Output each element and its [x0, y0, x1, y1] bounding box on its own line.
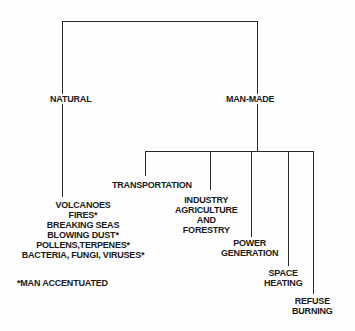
man-made-label: MAN-MADE [224, 94, 276, 104]
source-space-heating: SPACE HEATING [264, 268, 302, 288]
natural-label: NATURAL [48, 94, 93, 104]
branch-industry [210, 151, 211, 190]
root-connector [62, 21, 258, 22]
natural-stem [62, 21, 63, 197]
source-transportation: TRANSPORTATION [112, 180, 192, 190]
source-industry: INDUSTRY AGRICULTURE AND FORESTRY [175, 195, 238, 235]
man-made-stem [257, 21, 258, 151]
footnote: *MAN ACCENTUATED [17, 278, 108, 288]
pollution-sources-diagram: NATURAL MAN-MADE TRANSPORTATION INDUSTRY… [0, 0, 355, 331]
branch-transportation [145, 151, 146, 176]
source-refuse-burning: REFUSE BURNING [292, 296, 333, 316]
branch-refuse [313, 151, 314, 294]
branch-space-heating [288, 151, 289, 266]
source-power-generation: POWER GENERATION [221, 238, 278, 258]
natural-sources-list: VOLCANOES FIRES* BREAKING SEAS BLOWING D… [15, 200, 151, 260]
branch-power [251, 151, 252, 237]
